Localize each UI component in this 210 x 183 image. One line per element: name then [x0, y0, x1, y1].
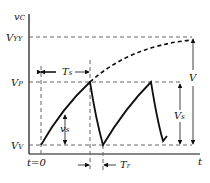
waveform-plot [0, 0, 210, 183]
tr-label: Tr [120, 160, 130, 170]
y-axis-label: vC [14, 12, 25, 22]
charging-asymptote [90, 40, 192, 82]
x-axis-label: t [198, 157, 202, 167]
vs-small-label: vs [60, 124, 69, 134]
vv-label: VV [11, 141, 23, 151]
vyy-label: VYY [6, 33, 22, 43]
relaxation-oscillator-diagram: vC VYY VP VV t=0 Ts Tr vs Vs V t [0, 0, 210, 183]
t0-label: t=0 [27, 158, 46, 168]
ts-label: Ts [62, 67, 72, 77]
vp-label: VP [11, 78, 23, 88]
v-label: V [189, 73, 196, 83]
vc-waveform [41, 82, 167, 145]
vs-label: Vs [174, 111, 185, 121]
